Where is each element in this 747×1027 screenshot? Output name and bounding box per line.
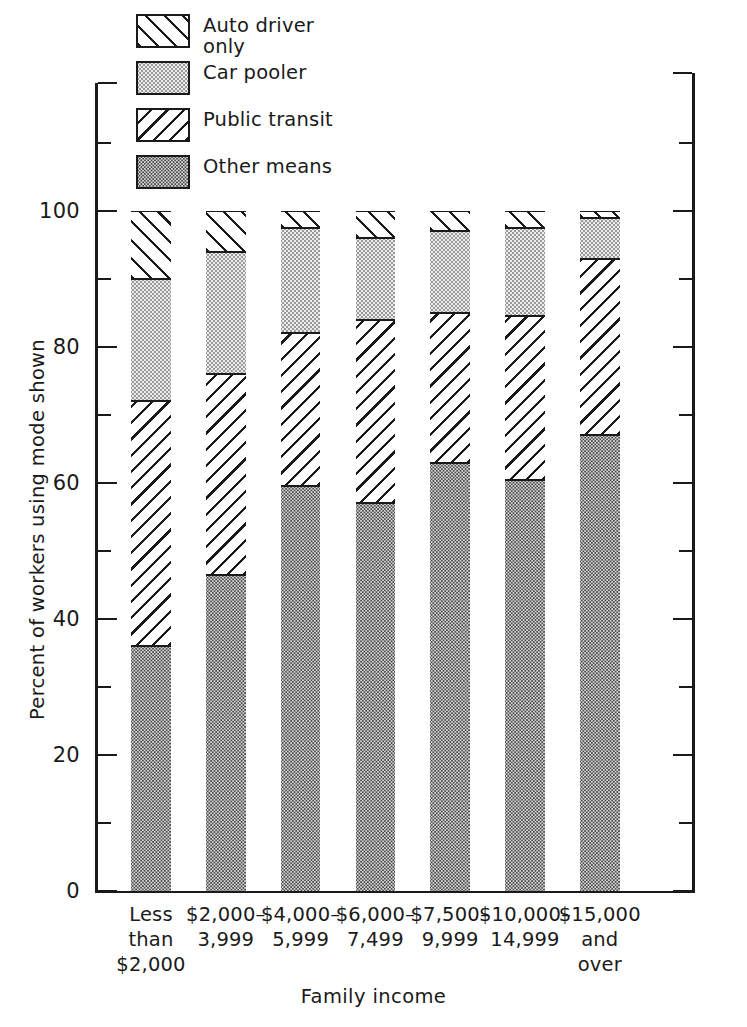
y-axis-tick-left-80 [98, 346, 117, 348]
y-axis-tick-left-20 [98, 754, 117, 756]
bar-7-segment-auto-driver-only [580, 211, 620, 218]
bar-2-segment-other-means [206, 575, 246, 891]
bar-2 [207, 211, 245, 891]
y-axis-tick-left-top-cap [98, 82, 117, 84]
y-axis-tick-right-30 [679, 686, 692, 688]
bar-7 [581, 211, 619, 891]
bar-1-segment-public-transit [131, 401, 171, 646]
bar-6-segment-car-pooler [505, 228, 545, 316]
y-axis-tick-right-110 [679, 142, 692, 144]
y-axis-tick-left-40 [98, 618, 117, 620]
bar-4 [356, 211, 394, 891]
bar-5 [431, 211, 469, 891]
y-axis-tick-left-50 [98, 550, 111, 552]
x-axis-label-7: $15,000 and over [542, 902, 658, 977]
bar-3-segment-public-transit [281, 333, 321, 486]
y-axis-label-0: 0 [66, 879, 80, 903]
y-axis-tick-right-top-cap [673, 72, 692, 74]
y-axis-tick-left-110 [98, 142, 111, 144]
bar-5-segment-other-means [430, 463, 470, 891]
y-axis-title: Percent of workers using mode shown [26, 330, 49, 730]
y-axis-label-40: 40 [53, 607, 80, 631]
y-axis-tick-left-30 [98, 686, 111, 688]
stacked-bar-chart-figure: Auto driver only Car pooler Public trans… [0, 0, 747, 1027]
bar-6 [506, 211, 544, 891]
bar-4-segment-other-means [356, 503, 396, 891]
bar-2-segment-auto-driver-only [206, 211, 246, 252]
bar-1-segment-other-means [131, 646, 171, 891]
x-axis-title: Family income [0, 985, 747, 1008]
bar-7-segment-car-pooler [580, 218, 620, 259]
bar-5-segment-car-pooler [430, 231, 470, 313]
y-axis-tick-left-10 [98, 822, 111, 824]
y-axis-tick-right-80 [673, 346, 692, 348]
bar-3-segment-other-means [281, 486, 321, 891]
bar-7-segment-other-means [580, 435, 620, 891]
bar-5-segment-public-transit [430, 313, 470, 463]
bar-6-segment-auto-driver-only [505, 211, 545, 228]
y-axis-tick-left-90 [98, 278, 111, 280]
bar-6-segment-other-means [505, 480, 545, 891]
y-axis-left-spine [95, 83, 98, 893]
y-axis-right-spine [692, 73, 695, 893]
y-axis-label-80: 80 [53, 335, 80, 359]
y-axis-tick-right-100 [673, 210, 692, 212]
y-axis-tick-left-60 [98, 482, 117, 484]
y-axis-tick-right-50 [679, 550, 692, 552]
bar-1-segment-auto-driver-only [131, 211, 171, 279]
bar-2-segment-car-pooler [206, 252, 246, 374]
bar-6-segment-public-transit [505, 316, 545, 479]
bar-3 [282, 211, 320, 891]
y-axis-tick-right-0 [673, 890, 692, 892]
y-axis-tick-right-40 [673, 618, 692, 620]
y-axis-label-60: 60 [53, 471, 80, 495]
bar-1 [132, 211, 170, 891]
bar-1-segment-car-pooler [131, 279, 171, 401]
y-axis-tick-right-70 [679, 414, 692, 416]
y-axis-label-20: 20 [53, 743, 80, 767]
y-axis-tick-left-70 [98, 414, 111, 416]
bar-4-segment-car-pooler [356, 238, 396, 320]
bar-5-segment-auto-driver-only [430, 211, 470, 231]
bar-4-segment-auto-driver-only [356, 211, 396, 238]
y-axis-tick-left-100 [98, 210, 117, 212]
bar-3-segment-auto-driver-only [281, 211, 321, 228]
y-axis-label-100: 100 [39, 199, 80, 223]
y-axis-tick-right-20 [673, 754, 692, 756]
y-axis-tick-right-10 [679, 822, 692, 824]
bar-7-segment-public-transit [580, 259, 620, 436]
plot-area: 100806040200 Less than $2,000$2,000– 3,9… [0, 0, 747, 1027]
bar-4-segment-public-transit [356, 320, 396, 504]
y-axis-tick-left-0 [98, 890, 117, 892]
y-axis-tick-right-90 [679, 278, 692, 280]
y-axis-tick-right-60 [673, 482, 692, 484]
bar-2-segment-public-transit [206, 374, 246, 575]
bar-3-segment-car-pooler [281, 228, 321, 333]
